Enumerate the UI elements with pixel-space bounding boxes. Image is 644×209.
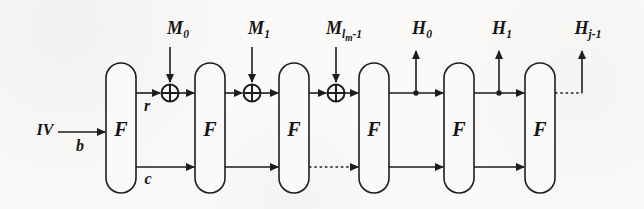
h1-label: H1 bbox=[492, 19, 512, 40]
branch-dot-h0 bbox=[413, 90, 418, 95]
mlm-base: M bbox=[326, 18, 342, 38]
xor-icon-3 bbox=[328, 85, 345, 102]
wires-svg bbox=[0, 0, 644, 209]
f-block-label-4: F bbox=[367, 119, 380, 139]
mlm-label: Mlm-1 bbox=[326, 19, 362, 43]
f-block-label-3: F bbox=[287, 119, 300, 139]
iv-label: IV bbox=[37, 122, 54, 138]
m1-sub: 1 bbox=[264, 28, 270, 40]
mlm-sub-tail: -1 bbox=[352, 28, 362, 40]
h1-sub: 1 bbox=[506, 28, 512, 40]
diagram-canvas: F F F F F F IV b r c M0 M1 Mlm-1 H0 H1 H… bbox=[0, 0, 644, 209]
f-block-label-5: F bbox=[452, 119, 465, 139]
r-rate-label: r bbox=[144, 98, 150, 114]
output-arrows bbox=[416, 51, 582, 93]
branch-dot-h1 bbox=[496, 90, 501, 95]
xor-icon-1 bbox=[162, 85, 179, 102]
mlm-sub: lm-1 bbox=[342, 28, 362, 40]
m0-label: M0 bbox=[167, 19, 189, 40]
h0-base: H bbox=[412, 18, 426, 38]
hj-base: H bbox=[575, 18, 589, 38]
f-block-label-2: F bbox=[203, 119, 216, 139]
h0-sub: 0 bbox=[426, 28, 432, 40]
m0-sub: 0 bbox=[183, 28, 189, 40]
xor-icon-2 bbox=[244, 85, 261, 102]
f-block-label-6: F bbox=[533, 119, 546, 139]
b-width-label: b bbox=[76, 138, 84, 154]
f-block-label-1: F bbox=[114, 119, 127, 139]
m0-base: M bbox=[167, 18, 183, 38]
h1-base: H bbox=[492, 18, 506, 38]
m1-label: M1 bbox=[248, 19, 270, 40]
hj-sub: j-1 bbox=[589, 28, 602, 40]
f-blocks bbox=[106, 63, 555, 193]
c-capacity-label: c bbox=[144, 171, 151, 187]
mlm-sub-sub: m bbox=[345, 33, 352, 43]
h0-label: H0 bbox=[412, 19, 432, 40]
hj-label: Hj-1 bbox=[575, 19, 602, 40]
m1-base: M bbox=[248, 18, 264, 38]
